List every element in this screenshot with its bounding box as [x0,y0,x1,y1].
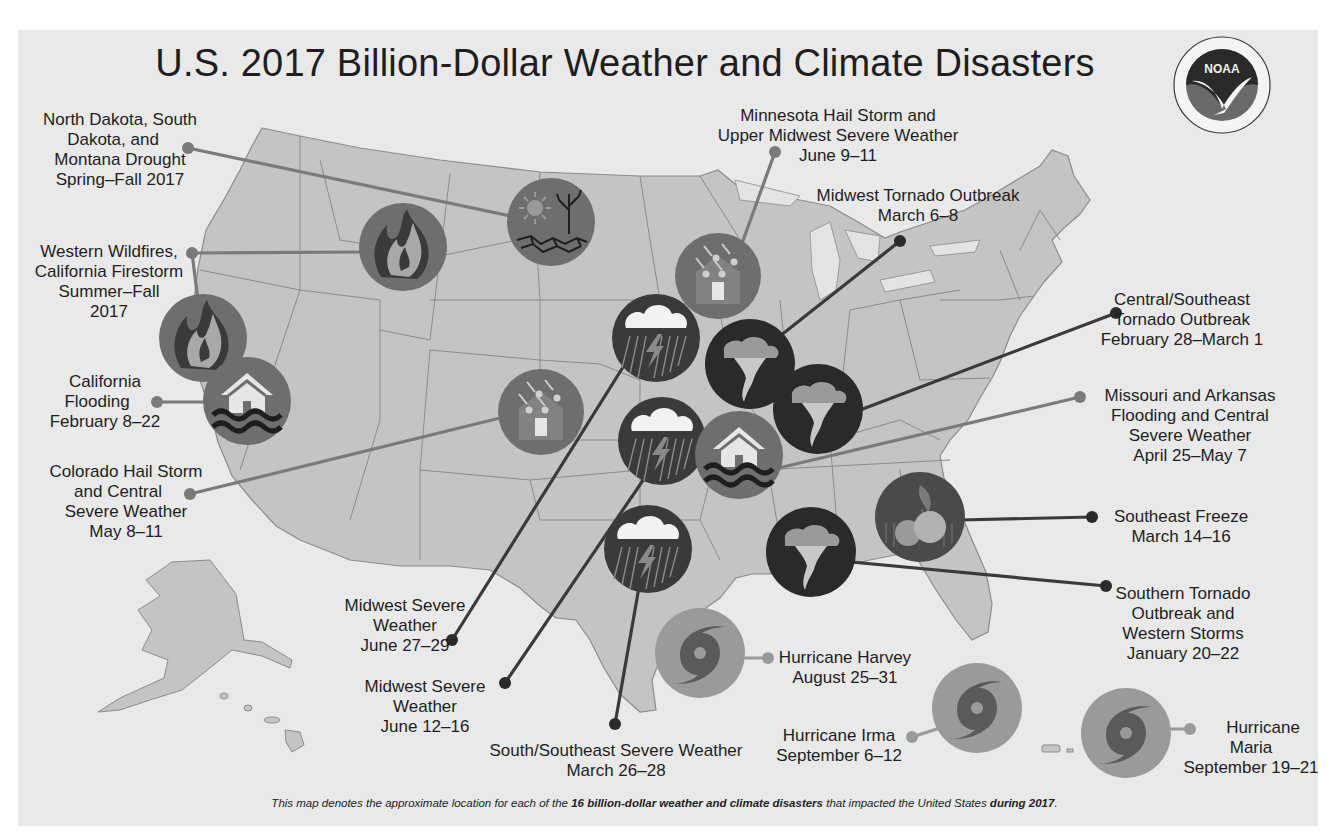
footnote: This map denotes the approximate locatio… [0,797,1329,809]
severe-storm-icon[interactable] [604,505,692,593]
label-western-wildfires: Western Wildfires, California Firestorm … [22,242,196,322]
label-minnesota-hail: Minnesota Hail Storm and Upper Midwest S… [708,106,968,166]
hurricane-icon[interactable] [655,608,745,698]
label-south-se-severe: South/Southeast Severe Weather March 26–… [478,741,754,781]
label-se-freeze: Southeast Freeze March 14–16 [1106,507,1256,547]
label-midwest-severe-jun27: Midwest Severe Weather June 27–29 [340,596,470,656]
severe-storm-icon[interactable] [618,397,706,485]
label-california-flooding: California Flooding February 8–22 [40,372,170,432]
alaska [98,560,292,712]
hurricane-icon[interactable] [1081,688,1171,778]
flood-icon[interactable] [695,411,783,499]
label-colorado-hail: Colorado Hail Storm and Central Severe W… [38,462,214,542]
flood-icon[interactable] [203,357,291,445]
label-central-se-tornado: Central/Southeast Tornado Outbreak Febru… [1094,290,1270,350]
hail-icon[interactable] [498,369,584,455]
noaa-logo: NOAA [1174,37,1270,133]
severe-storm-icon[interactable] [612,294,700,382]
label-hurricane-irma: Hurricane Irma September 6–12 [772,726,906,766]
label-hurricane-harvey: Hurricane Harvey August 25–31 [770,648,920,688]
label-mo-ar-flooding: Missouri and Arkansas Flooding and Centr… [1090,386,1290,466]
label-midwest-tornado: Midwest Tornado Outbreak March 6–8 [808,186,1028,226]
noaa-logo-text: NOAA [1204,62,1240,76]
drought-icon[interactable] [507,178,595,266]
freeze-icon[interactable] [875,472,965,562]
label-nd-sd-mt-drought: North Dakota, South Dakota, and Montana … [30,110,210,190]
puerto-rico [1042,745,1073,752]
tornado-icon[interactable] [766,507,856,597]
label-hurricane-maria: Hurricane Maria September 19–21 [1174,718,1328,778]
hail-icon[interactable] [675,233,761,319]
wildfire-icon[interactable] [359,203,447,291]
hurricane-icon[interactable] [932,663,1022,753]
page-title: U.S. 2017 Billion-Dollar Weather and Cli… [100,42,1150,85]
hawaii [220,693,304,752]
tornado-icon[interactable] [773,364,863,454]
label-midwest-severe-jun12: Midwest Severe Weather June 12–16 [360,677,490,737]
label-southern-tornado: Southern Tornado Outbreak and Western St… [1108,584,1258,664]
